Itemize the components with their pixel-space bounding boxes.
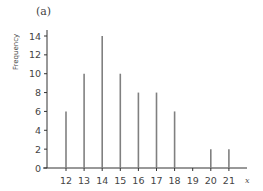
x-tick-label: 12 [60, 175, 72, 186]
x-tick-label: 14 [96, 175, 108, 186]
y-tick-label: 4 [35, 125, 41, 136]
x-tick-label: 18 [169, 175, 181, 186]
y-tick-label: 2 [35, 144, 41, 155]
y-tick-label: 12 [29, 49, 41, 60]
y-tick-label: 8 [35, 87, 41, 98]
y-tick-label: 10 [29, 68, 41, 79]
x-tick-label: 17 [150, 175, 162, 186]
x-tick-label: 16 [132, 175, 144, 186]
y-tick-label: 14 [29, 31, 41, 42]
y-tick-label: 6 [35, 106, 41, 117]
x-axis-label: x [245, 176, 250, 185]
x-tick-label: 15 [114, 175, 126, 186]
y-tick-label: 0 [35, 163, 41, 174]
x-tick-label: 19 [187, 175, 199, 186]
x-tick-label: 20 [205, 175, 217, 186]
x-tick-label: 13 [78, 175, 90, 186]
x-tick-label: 21 [223, 175, 235, 186]
frequency-chart: 0246810121412131415161718192021x [0, 0, 263, 191]
